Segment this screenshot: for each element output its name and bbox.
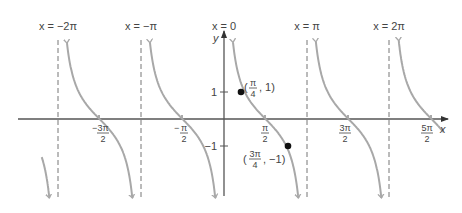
svg-text:, −1): , −1): [263, 153, 285, 165]
svg-text:2: 2: [342, 134, 347, 144]
svg-text:π: π: [250, 78, 256, 88]
cot-branch: [399, 41, 444, 132]
svg-text:2: 2: [181, 134, 186, 144]
cot-branch: [42, 157, 50, 198]
point-label-pi-over-4: ( π 4 , 1): [244, 78, 275, 99]
ytick-neg1: −1: [204, 140, 217, 152]
svg-text:, 1): , 1): [259, 81, 275, 93]
label-asym-zero: x = 0: [212, 20, 236, 32]
label-asym-negpi: x = −π: [125, 20, 157, 32]
svg-text:4: 4: [250, 89, 255, 99]
svg-text:π: π: [262, 123, 268, 133]
label-asym-pi: x = π: [294, 20, 320, 32]
xtick-5pi2: 5π 2: [421, 123, 433, 144]
label-asym-neg2pi: x = −2π: [39, 20, 78, 32]
svg-text:(: (: [244, 81, 248, 93]
svg-text:2: 2: [424, 134, 429, 144]
svg-text:π: π: [181, 123, 187, 133]
x-axis-label: x: [439, 123, 446, 135]
cot-branch: [67, 43, 133, 198]
svg-text:−: −: [174, 123, 179, 133]
cotangent-graph: x = −2π x = −π x = 0 x = π x = 2π x y 1 …: [0, 0, 462, 213]
y-axis-label: y: [212, 32, 220, 44]
svg-text:2: 2: [100, 134, 105, 144]
xtick-3pi2: 3π 2: [339, 123, 351, 144]
svg-text:3π: 3π: [339, 123, 350, 133]
ytick-1: 1: [211, 86, 217, 98]
svg-text:5π: 5π: [421, 123, 432, 133]
point-label-3pi-over-4: ( 3π 4 , −1): [243, 149, 285, 170]
xtick-negpi2: − π 2: [174, 123, 188, 144]
svg-text:4: 4: [252, 160, 257, 170]
svg-text:2: 2: [262, 134, 267, 144]
point-3pi-over-4: [285, 143, 292, 150]
svg-text:3π: 3π: [97, 123, 108, 133]
cot-branch: [316, 42, 382, 198]
svg-text:(: (: [243, 153, 247, 165]
cot-branch: [150, 43, 216, 198]
cot-branch: [233, 42, 298, 198]
xtick-neg3pi2: − 3π 2: [92, 123, 109, 144]
xtick-pi2: π 2: [261, 123, 269, 144]
label-asym-2pi: x = 2π: [373, 20, 405, 32]
svg-text:3π: 3π: [249, 149, 260, 159]
